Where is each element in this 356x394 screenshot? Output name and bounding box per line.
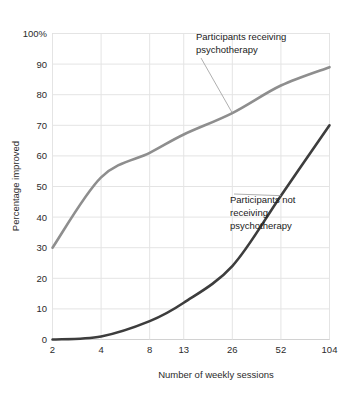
x-tick-label: 52 (276, 344, 287, 355)
x-tick-label: 2 (50, 344, 55, 355)
x-tick-label: 13 (178, 344, 189, 355)
chart-container: 0102030405060708090100% 248132652104 Per… (0, 0, 356, 394)
y-tick-label: 100% (23, 28, 48, 39)
x-tick-label: 26 (227, 344, 238, 355)
x-tick-label: 4 (98, 344, 103, 355)
annotation-receiving-line-1: Participants receiving (196, 31, 286, 42)
annotation-not-receiving-line-1: Participants not (230, 194, 296, 205)
annotation-receiving-line-2: psychotherapy (196, 44, 258, 55)
y-tick-label: 90 (36, 59, 47, 70)
y-tick-label: 80 (36, 89, 47, 100)
y-tick-label: 30 (36, 242, 47, 253)
x-axis-title: Number of weekly sessions (158, 369, 274, 380)
y-tick-label: 10 (36, 303, 47, 314)
y-tick-label: 50 (36, 181, 47, 192)
x-tick-label: 104 (322, 344, 338, 355)
y-tick-label: 20 (36, 273, 47, 284)
y-axis-title: Percentage improved (10, 141, 21, 231)
y-tick-label: 0 (42, 334, 47, 345)
y-tick-label: 70 (36, 120, 47, 131)
y-tick-label: 60 (36, 150, 47, 161)
annotation-not-receiving-line-2: receiving (230, 207, 268, 218)
y-tick-label: 40 (36, 212, 47, 223)
x-tick-label: 8 (147, 344, 152, 355)
annotation-not-receiving-line-3: psychotherapy (230, 220, 292, 231)
psychotherapy-improvement-chart: 0102030405060708090100% 248132652104 Per… (0, 0, 356, 394)
